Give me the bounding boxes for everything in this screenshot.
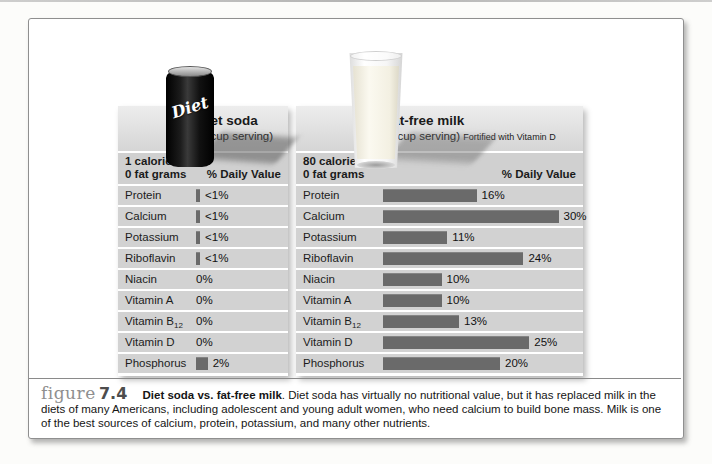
nutrient-label: Calcium — [303, 207, 345, 226]
nutrient-value: 0% — [196, 291, 213, 310]
nutrient-row: Protein16% — [296, 186, 583, 205]
nutrient-label: Vitamin B12 — [125, 312, 183, 335]
nutrient-bar — [383, 231, 447, 244]
nutrient-value: 20% — [505, 354, 528, 373]
nutrient-label: Potassium — [303, 228, 357, 247]
nutrient-row: Riboflavin24% — [296, 249, 583, 268]
nutrient-label: Riboflavin — [303, 249, 354, 268]
milk-glass-rim — [350, 51, 402, 61]
nutrient-row: Potassium11% — [296, 228, 583, 247]
nutrient-value: 24% — [528, 249, 551, 268]
nutrient-label: Phosphorus — [125, 354, 186, 373]
fat-line: 0 fat grams — [125, 168, 186, 181]
nutrient-value: <1% — [205, 228, 228, 247]
nutrient-value: <1% — [205, 207, 228, 226]
milk-fill — [353, 66, 399, 159]
panel-title: Fat-free milk — [384, 113, 556, 129]
nutrient-bar — [383, 294, 442, 307]
nutrient-bar — [196, 210, 200, 223]
nutrient-bar — [196, 231, 200, 244]
nutrient-bar — [383, 252, 523, 265]
nutrient-row: Phosphorus2% — [118, 354, 288, 373]
daily-value-header: % Daily Value — [502, 168, 576, 181]
nutrient-row: Riboflavin<1% — [118, 249, 288, 268]
nutrient-row: Vitamin D0% — [118, 333, 288, 352]
milk-glass-image — [349, 53, 403, 169]
nutrient-bar — [383, 210, 559, 223]
caption-body: . Diet soda has virtually no nutritional… — [41, 389, 661, 429]
milk-glass-base — [357, 161, 395, 169]
nutrient-label: Vitamin D — [125, 333, 175, 352]
nutrient-row: Niacin0% — [118, 270, 288, 289]
nutrient-value: 11% — [452, 228, 474, 247]
nutrient-value: 13% — [464, 312, 487, 331]
nutrient-row: Vitamin D25% — [296, 333, 583, 352]
nutrient-label: Protein — [125, 186, 161, 205]
nutrient-row: Protein<1% — [118, 186, 288, 205]
nutrient-row: Calcium<1% — [118, 207, 288, 226]
nutrient-label: Vitamin A — [125, 291, 173, 310]
nutrient-row: Potassium<1% — [118, 228, 288, 247]
figure-caption: figure 7.4 Diet soda vs. fat-free milk. … — [29, 378, 681, 437]
daily-value-header: % Daily Value — [207, 168, 281, 181]
nutrient-value: 2% — [213, 354, 230, 373]
caption-title: Diet soda vs. fat-free milk — [143, 389, 282, 401]
nutrient-bar — [196, 357, 208, 370]
nutrient-label: Niacin — [125, 270, 157, 289]
page-edge-line — [0, 0, 712, 2]
nutrient-bar — [383, 189, 477, 202]
nutrient-row: Vitamin B1213% — [296, 312, 583, 331]
nutrient-label: Vitamin A — [303, 291, 351, 310]
nutrient-row: Vitamin A10% — [296, 291, 583, 310]
nutrient-label: Calcium — [125, 207, 167, 226]
nutrient-bar — [383, 273, 442, 286]
nutrient-label: Phosphorus — [303, 354, 364, 373]
nutrient-value: <1% — [205, 186, 228, 205]
nutrient-label: Potassium — [125, 228, 179, 247]
soda-can-top — [168, 66, 212, 77]
nutrient-bar — [383, 336, 529, 349]
nutrient-value: 25% — [534, 333, 557, 352]
nutrient-value: 30% — [564, 207, 587, 226]
nutrient-bar — [383, 357, 500, 370]
nutrient-row: Vitamin B120% — [118, 312, 288, 331]
nutrient-value: 10% — [447, 291, 470, 310]
nutrient-value: 0% — [196, 333, 213, 352]
diet-soda-nutrient-rows: Protein<1%Calcium<1%Potassium<1%Riboflav… — [118, 186, 288, 373]
nutrient-bar — [383, 315, 459, 328]
nutrient-row: Vitamin A0% — [118, 291, 288, 310]
nutrient-row: Calcium30% — [296, 207, 583, 226]
nutrient-value: 10% — [447, 270, 470, 289]
diet-soda-can-image: Diet — [165, 66, 215, 168]
textbook-figure-page: Diet Diet soda (1 cup serving) 1 calorie… — [0, 0, 712, 464]
nutrient-value: <1% — [205, 249, 228, 268]
figure-label-word: figure — [41, 383, 96, 403]
nutrient-label: Niacin — [303, 270, 335, 289]
nutrient-bar — [196, 189, 200, 202]
figure-box: Diet Diet soda (1 cup serving) 1 calorie… — [28, 18, 684, 439]
nutrient-value: 0% — [196, 312, 213, 331]
figure-label-number: 7.4 — [99, 384, 127, 403]
nutrient-row: Niacin10% — [296, 270, 583, 289]
nutrient-value: 16% — [482, 186, 505, 205]
nutrient-label: Vitamin D — [303, 333, 353, 352]
nutrient-row: Phosphorus20% — [296, 354, 583, 373]
nutrient-label: Riboflavin — [125, 249, 176, 268]
nutrient-label: Vitamin B12 — [303, 312, 361, 335]
nutrient-label: Protein — [303, 186, 339, 205]
nutrient-bar — [196, 252, 200, 265]
nutrient-value: 0% — [196, 270, 213, 289]
fat-line: 0 fat grams — [303, 168, 364, 181]
fat-free-milk-nutrient-rows: Protein16%Calcium30%Potassium11%Riboflav… — [296, 186, 583, 373]
